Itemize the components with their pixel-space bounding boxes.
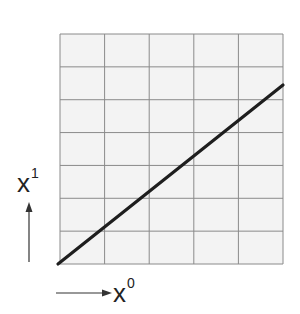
diagram-canvas	[0, 0, 300, 314]
grid-background	[60, 34, 283, 264]
x-axis-label-superscript: 0	[127, 275, 135, 291]
x-axis-label: x0	[113, 280, 135, 306]
y-axis-arrow-icon	[26, 202, 33, 262]
y-axis-label: x1	[17, 170, 39, 196]
y-axis-label-base: x	[17, 168, 30, 198]
x-axis-label-base: x	[113, 278, 126, 308]
x-axis-arrow-icon	[56, 290, 112, 297]
y-axis-label-superscript: 1	[31, 165, 39, 181]
